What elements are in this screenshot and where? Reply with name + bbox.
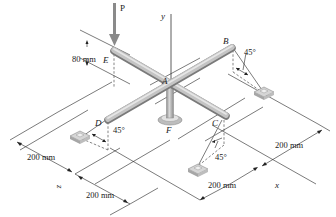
label-y-axis: y <box>160 11 165 21</box>
frame-diagram: P y A B C D E F x z 80 mm 200 mm 200 mm … <box>0 0 336 217</box>
load-arrow-P <box>109 3 120 46</box>
label-D: D <box>94 118 102 128</box>
dim-bottom-z: 200 mm <box>86 190 114 200</box>
label-P: P <box>120 3 125 13</box>
anchor-C <box>188 164 208 177</box>
angle-C: 45° <box>215 152 227 162</box>
label-C: C <box>212 118 219 128</box>
label-A: A <box>161 76 168 86</box>
angle-D: 45° <box>113 125 125 135</box>
label-B: B <box>223 36 229 46</box>
label-x-axis: x <box>274 180 279 190</box>
label-E: E <box>102 55 109 65</box>
dim-height-E: 80 mm <box>72 54 96 64</box>
dim-left-front: 200 mm <box>27 152 55 162</box>
dim-bottom-x: 200 mm <box>208 180 236 190</box>
label-z-axis: z <box>55 184 65 189</box>
angle-B: 45° <box>244 47 256 57</box>
dim-right-x: 200 mm <box>275 140 303 150</box>
label-F: F <box>165 125 172 135</box>
